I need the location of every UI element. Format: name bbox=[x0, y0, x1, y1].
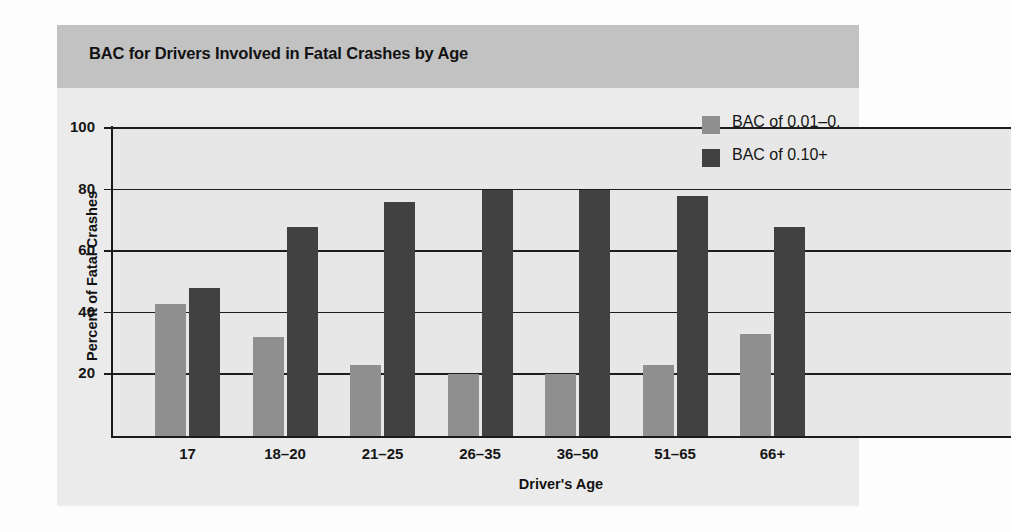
bar-bac-high bbox=[384, 202, 415, 436]
bar-bac-low bbox=[643, 365, 674, 436]
bar-bac-low bbox=[155, 304, 186, 436]
x-axis-line bbox=[111, 436, 1011, 438]
y-axis-line bbox=[111, 126, 113, 438]
bar-bac-low bbox=[740, 334, 771, 436]
gridline bbox=[111, 250, 1011, 252]
bar-bac-low bbox=[253, 337, 284, 436]
legend-label: BAC of 0.01–0. bbox=[732, 113, 841, 131]
y-axis-tick bbox=[104, 250, 112, 252]
page-margin-left bbox=[0, 0, 57, 532]
gridline bbox=[111, 312, 1011, 314]
legend-swatch-bac-low bbox=[702, 116, 720, 134]
bar-bac-high bbox=[189, 288, 220, 436]
y-axis-title: Percent of Fatal Crashes bbox=[84, 126, 100, 426]
y-axis-tick bbox=[104, 312, 112, 314]
gridline bbox=[111, 127, 1011, 129]
figure-panel: BAC for Drivers Involved in Fatal Crashe… bbox=[57, 25, 859, 505]
gridline bbox=[111, 189, 1011, 191]
page-margin-bottom bbox=[0, 506, 859, 532]
bar-bac-high bbox=[482, 190, 513, 436]
legend-swatch-bac-high bbox=[702, 149, 720, 167]
legend-label: BAC of 0.10+ bbox=[732, 146, 828, 164]
bar-bac-high bbox=[677, 196, 708, 436]
bar-bac-low bbox=[545, 374, 576, 436]
bar-bac-low bbox=[448, 374, 479, 436]
bar-bac-low bbox=[350, 365, 381, 436]
y-axis-tick bbox=[104, 189, 112, 191]
x-tick-label: 66+ bbox=[713, 445, 833, 462]
y-axis-tick bbox=[104, 127, 112, 129]
bar-bac-high bbox=[774, 227, 805, 436]
chart-title: BAC for Drivers Involved in Fatal Crashe… bbox=[89, 44, 468, 63]
bar-bac-high bbox=[287, 227, 318, 436]
title-band: BAC for Drivers Involved in Fatal Crashe… bbox=[57, 25, 859, 88]
bar-bac-high bbox=[579, 190, 610, 436]
y-axis-tick bbox=[104, 373, 112, 375]
x-axis-title: Driver's Age bbox=[111, 476, 1011, 492]
